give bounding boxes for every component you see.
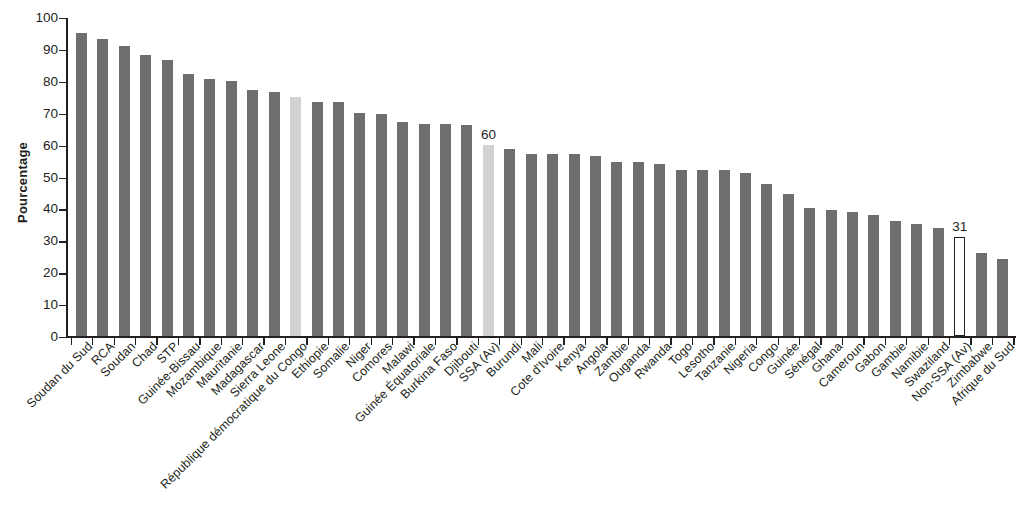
bar (740, 173, 751, 336)
y-tick-mark-0 (59, 337, 67, 338)
bar (183, 74, 194, 336)
bar (97, 39, 108, 336)
bar (890, 221, 901, 336)
bar-chart-figure: Pourcentage 0102030405060708090100 6031 … (0, 0, 1021, 531)
bar (976, 253, 987, 336)
bar (719, 170, 730, 336)
bar (376, 114, 387, 336)
bar (247, 90, 258, 336)
y-tick-mark-70 (59, 114, 67, 115)
bar (76, 33, 87, 336)
x-category-label: Soudan du Sud (25, 340, 96, 411)
bar (997, 259, 1008, 336)
bar (654, 164, 665, 336)
y-tick-mark-90 (59, 50, 67, 51)
bar (354, 113, 365, 336)
y-tick-mark-10 (59, 305, 67, 306)
bar (119, 46, 130, 336)
y-tick-mark-80 (59, 82, 67, 83)
bar (204, 79, 215, 336)
bar (461, 125, 472, 336)
bar (140, 55, 151, 336)
bar (676, 170, 687, 336)
bar (290, 97, 301, 336)
y-tick-mark-100 (59, 18, 67, 19)
bar (611, 162, 622, 336)
bar (333, 102, 344, 336)
y-tick-mark-40 (59, 209, 67, 210)
y-tick-label-20: 20 (43, 266, 58, 280)
bar (868, 215, 879, 336)
x-axis-category-labels: Soudan du SudRCASoudanChadSTPGuinée-Biss… (66, 340, 1021, 530)
plot-area: 0102030405060708090100 6031 (66, 18, 1016, 337)
bar (483, 145, 494, 336)
bar (847, 212, 858, 336)
y-tick-mark-20 (59, 273, 67, 274)
bar (397, 122, 408, 336)
bar (440, 124, 451, 336)
bar (419, 124, 430, 336)
bar (526, 154, 537, 336)
y-tick-label-50: 50 (43, 171, 58, 185)
bar (826, 210, 837, 336)
bar-value-label: 60 (481, 127, 496, 142)
bar (162, 60, 173, 336)
bar-value-label: 31 (952, 219, 967, 234)
bar (783, 194, 794, 336)
y-tick-mark-60 (59, 146, 67, 147)
bar (569, 154, 580, 336)
bar (590, 156, 601, 336)
y-tick-label-80: 80 (43, 75, 58, 89)
y-tick-label-100: 100 (35, 11, 58, 25)
bar (226, 81, 237, 336)
bar (269, 92, 280, 336)
bar (761, 184, 772, 336)
bar (547, 154, 558, 336)
y-tick-label-60: 60 (43, 139, 58, 153)
y-tick-label-40: 40 (43, 203, 58, 217)
y-tick-mark-50 (59, 178, 67, 179)
bar (911, 224, 922, 336)
y-tick-label-10: 10 (43, 298, 58, 312)
bar (933, 228, 944, 336)
bar (954, 237, 965, 336)
y-tick-label-70: 70 (43, 107, 58, 121)
y-tick-mark-30 (59, 241, 67, 242)
bar (804, 208, 815, 336)
y-axis-tick-labels: 0102030405060708090100 (20, 18, 58, 337)
y-tick-label-0: 0 (50, 330, 58, 344)
y-tick-label-30: 30 (43, 235, 58, 249)
bar (697, 170, 708, 336)
bar (312, 102, 323, 336)
bar (504, 149, 515, 336)
y-tick-label-90: 90 (43, 43, 58, 57)
bar (633, 162, 644, 336)
